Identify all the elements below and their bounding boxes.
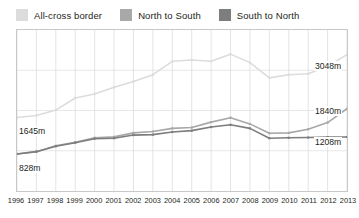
x-axis-tick-2013: 2013 [335, 196, 359, 205]
chart-svg [17, 30, 347, 191]
legend-swatch-south-to-north-icon [219, 9, 231, 21]
value-label-right-low: 1208m [314, 137, 342, 147]
legend-item-all-cross-border[interactable]: All-cross border [16, 9, 102, 21]
plot-area [16, 29, 348, 192]
value-label-right-mid: 1840m [314, 106, 342, 116]
legend-label-north-to-south: North to South [138, 10, 201, 21]
legend-item-north-to-south[interactable]: North to South [120, 9, 201, 21]
legend-item-south-to-north[interactable]: South to North [219, 9, 300, 21]
chart-container: All-cross border North to South South to… [0, 0, 359, 218]
legend-label-south-to-north: South to North [237, 10, 300, 21]
legend-label-all-cross-border: All-cross border [34, 10, 102, 21]
value-label-left-lower: 828m [18, 163, 42, 173]
horizontal-gridlines [17, 70, 347, 151]
chart-legend: All-cross border North to South South to… [16, 6, 317, 24]
value-label-left-upper: 1645m [18, 126, 46, 136]
series-lines [17, 53, 347, 155]
value-label-right-top: 3048m [314, 61, 342, 71]
legend-swatch-north-to-south-icon [120, 9, 132, 21]
x-axis-labels: 1996199719981999200020012002200320042005… [16, 196, 348, 210]
legend-swatch-all-cross-border-icon [16, 9, 28, 21]
